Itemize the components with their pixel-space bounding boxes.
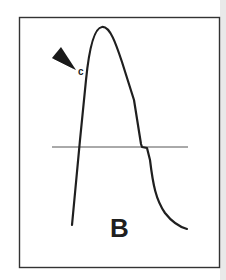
- waveform-curve: [72, 27, 187, 229]
- waveform-diagram: c B: [0, 0, 226, 280]
- arrowhead-icon: [52, 47, 76, 70]
- marker-label-c: c: [78, 66, 84, 77]
- panel-label: B: [110, 213, 129, 243]
